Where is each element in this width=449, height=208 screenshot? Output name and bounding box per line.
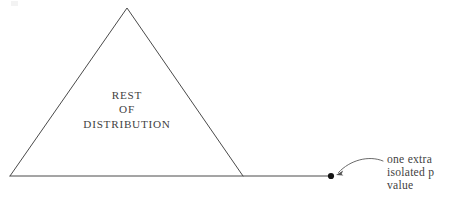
distribution-label-line-2: OF — [119, 103, 135, 115]
callout-label-line-3: value — [387, 179, 413, 192]
distribution-diagram-canvas: REST OF DISTRIBUTION one extra isolated … — [0, 0, 449, 208]
callout-label-line-2: isolated p — [387, 166, 434, 179]
callout-leader-line — [339, 158, 384, 172]
callout-label-line-1: one extra — [387, 153, 432, 166]
distribution-label-line-3: DISTRIBUTION — [83, 118, 170, 130]
figure-root: REST OF DISTRIBUTION one extra isolated … — [0, 0, 449, 208]
isolated-p-value-point — [328, 173, 334, 179]
distribution-label-line-1: REST — [112, 89, 142, 101]
